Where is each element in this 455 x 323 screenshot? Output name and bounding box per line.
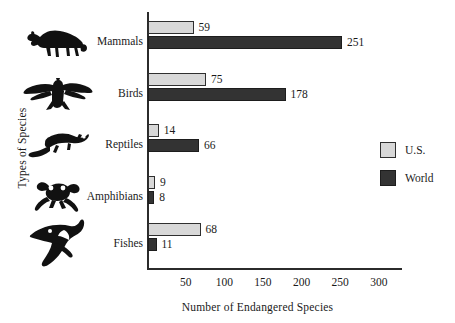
bar-value-mammals-us: 59: [199, 21, 211, 34]
legend-swatch-world-icon: [380, 170, 396, 186]
bar-fishes-world: [148, 238, 157, 251]
legend-item-world: World: [380, 164, 433, 192]
category-label-reptiles: Reptiles: [105, 138, 143, 150]
bar-amphibians-world: [148, 191, 154, 204]
x-tick-250: 250: [332, 276, 349, 288]
bar-value-mammals-world: 251: [347, 36, 364, 49]
bar-value-fishes-world: 11: [162, 238, 173, 251]
bar-value-amphibians-us: 9: [160, 176, 166, 189]
x-tick-100: 100: [216, 276, 233, 288]
category-label-amphibians: Amphibians: [87, 190, 143, 202]
bar-mammals-world: [148, 36, 342, 49]
bar-value-amphibians-world: 8: [159, 191, 165, 204]
legend-item-us: U.S.: [380, 136, 433, 164]
x-tick-50: 50: [180, 276, 192, 288]
eagle-icon: [22, 74, 94, 112]
x-axis-title-text: Number of Endangered Species: [122, 301, 334, 313]
category-label-mammals: Mammals: [97, 35, 143, 47]
bar-amphibians-us: [148, 176, 155, 189]
frog-icon: [30, 178, 82, 214]
category-label-fishes: Fishes: [114, 237, 143, 249]
bar-value-fishes-us: 68: [206, 223, 218, 236]
legend-label-us: U.S.: [405, 144, 425, 156]
category-label-birds: Birds: [118, 87, 143, 99]
x-tick-200: 200: [293, 276, 310, 288]
x-tick-300: 300: [370, 276, 387, 288]
legend-label-world: World: [405, 172, 433, 184]
armadillo-icon: [26, 24, 88, 58]
lizard-icon: [26, 127, 90, 161]
bar-mammals-us: [148, 21, 194, 34]
x-axis-line: [147, 268, 402, 270]
shark-icon: [28, 218, 94, 268]
bar-value-reptiles-world: 66: [204, 139, 216, 152]
bar-birds-us: [148, 73, 206, 86]
bar-birds-world: [148, 88, 286, 101]
bar-fishes-us: [148, 223, 201, 236]
x-tick-150: 150: [254, 276, 271, 288]
legend-swatch-us-icon: [380, 142, 396, 158]
bar-reptiles-us: [148, 124, 159, 137]
bar-value-reptiles-us: 14: [164, 124, 176, 137]
bar-reptiles-world: [148, 139, 199, 152]
bar-value-birds-world: 178: [291, 88, 308, 101]
bar-value-birds-us: 75: [211, 73, 223, 86]
x-axis-title: Number of Endangered Species: [0, 301, 455, 313]
legend: U.S. World: [380, 136, 433, 192]
plot-area: 59 251 75 178 14 66 9 8 68 11 50 100 150…: [147, 12, 402, 270]
endangered-species-bar-chart: Types of Species: [0, 0, 455, 323]
